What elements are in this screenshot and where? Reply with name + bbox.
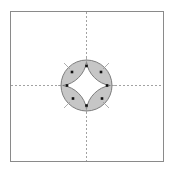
point-right [106, 84, 109, 87]
point-bottom [85, 104, 88, 107]
point-lower-left-lens [72, 97, 75, 100]
point-upper-right-lens [100, 71, 103, 74]
point-upper-left-lens [71, 71, 74, 74]
geometry-diagram [0, 0, 172, 171]
point-lower-right-lens [101, 97, 104, 100]
point-left [66, 84, 69, 87]
point-top [85, 65, 88, 68]
